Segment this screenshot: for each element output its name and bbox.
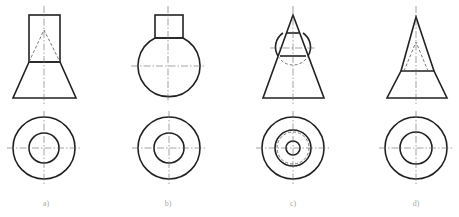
panel-label-c: c) xyxy=(290,199,297,208)
middle-circle xyxy=(275,130,311,166)
top-view-c xyxy=(256,111,331,185)
panel-d: d) xyxy=(379,6,454,208)
front-view-c xyxy=(263,6,324,104)
panel-b: b) xyxy=(131,6,207,208)
front-view-b xyxy=(131,6,206,103)
hidden-cone-hole xyxy=(29,30,60,62)
cylinder-outline xyxy=(29,15,60,62)
sphere-outline xyxy=(138,38,200,97)
front-view-a xyxy=(13,6,76,104)
panel-label-a: a) xyxy=(43,199,50,208)
top-view-b xyxy=(132,111,207,185)
panel-a: a) xyxy=(7,6,82,208)
technical-drawing: a) b) xyxy=(0,0,459,217)
frustum-outline xyxy=(13,62,76,98)
panel-label-d: d) xyxy=(413,199,420,208)
panel-label-b: b) xyxy=(165,199,172,208)
frustum-outline xyxy=(387,71,447,98)
top-view-a xyxy=(7,111,82,185)
front-view-d xyxy=(387,6,447,104)
panel-c: c) xyxy=(256,6,331,208)
cone-outline xyxy=(401,17,434,71)
cylinder-outline xyxy=(155,15,183,38)
top-view-d xyxy=(379,111,454,185)
